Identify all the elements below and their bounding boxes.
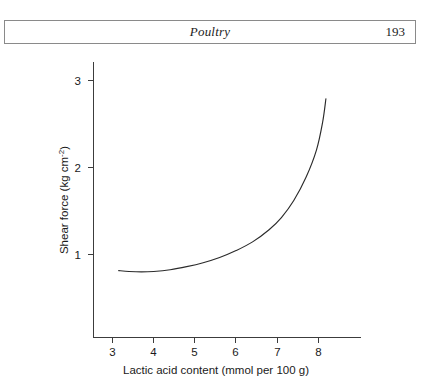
x-axis-title: Lactic acid content (mmol per 100 g) — [123, 364, 309, 376]
x-tick-label-7: 7 — [274, 346, 280, 358]
page-number: 193 — [386, 24, 406, 40]
y-tick-label-3: 3 — [75, 75, 81, 87]
x-axis-ticks — [113, 338, 319, 344]
y-tick-label-1: 1 — [75, 249, 81, 261]
x-tick-label-4: 4 — [150, 346, 157, 358]
page-running-head: Poultry 193 — [4, 20, 416, 44]
plot-canvas: 3 2 1 3 4 5 6 7 8 Lactic acid content (m… — [0, 50, 448, 389]
x-tick-label-5: 5 — [191, 346, 197, 358]
y-axis-ticks — [88, 81, 94, 255]
figure-shear-force-vs-lactic-acid: 3 2 1 3 4 5 6 7 8 Lactic acid content (m… — [0, 50, 448, 389]
data-curve-line — [119, 99, 326, 272]
x-tick-label-8: 8 — [315, 346, 321, 358]
y-tick-label-2: 2 — [75, 162, 81, 174]
running-head-title: Poultry — [5, 24, 415, 40]
x-tick-label-3: 3 — [109, 346, 115, 358]
y-axis-title-main: Shear force (kg cm — [58, 157, 70, 254]
y-axis-title-close: ) — [58, 146, 70, 150]
y-axis-title: Shear force (kg cm-2) — [57, 146, 70, 254]
x-tick-label-6: 6 — [232, 346, 238, 358]
